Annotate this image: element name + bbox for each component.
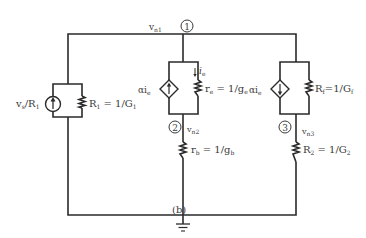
node-1-marker: 1 [184, 22, 190, 32]
source-label: vs/R1 [15, 98, 39, 110]
circuit-diagram: vs/R1 R1 = 1/G1 1 vn1 ie αie re = 1/ge 2 [0, 0, 366, 238]
dependent-current-source-icon [160, 80, 178, 98]
current-source-icon [46, 97, 61, 112]
resistor-icon [79, 96, 85, 108]
node-2-voltage: vn2 [186, 125, 199, 135]
dependent-current-source-icon [271, 80, 289, 98]
resistor-icon [180, 142, 186, 158]
middle-branch: ie αie re = 1/ge 2 vn2 rb = 1/gb [138, 62, 248, 231]
wires [68, 34, 296, 215]
resistor-icon [195, 80, 201, 96]
ie-label: ie [199, 66, 206, 77]
node-2-marker: 2 [172, 123, 178, 133]
right-branch: αie Rf=1/Gf 3 vn3 R2 = 1/G2 [249, 62, 354, 162]
node-1: 1 vn1 [148, 20, 193, 33]
r2-label: R2 = 1/G2 [303, 144, 351, 156]
rf-label: Rf=1/Gf [315, 83, 354, 95]
node-3-voltage: vn3 [301, 127, 314, 137]
dep-source-mid-label: αie [138, 85, 151, 96]
dep-source-right-label: αie [249, 85, 262, 96]
node-1-voltage: vn1 [148, 22, 162, 33]
r1-label: R1 = 1/G1 [89, 98, 137, 110]
figure-caption: (b) [172, 204, 186, 215]
node-3-marker: 3 [282, 123, 288, 133]
current-arrow-icon [193, 68, 196, 77]
resistor-icon [293, 142, 299, 162]
ground-icon [176, 224, 190, 231]
rb-label: rb = 1/gb [191, 144, 235, 156]
left-branch: vs/R1 R1 = 1/G1 [15, 84, 137, 117]
re-label: re = 1/ge [205, 83, 248, 95]
resistor-icon [306, 80, 312, 96]
